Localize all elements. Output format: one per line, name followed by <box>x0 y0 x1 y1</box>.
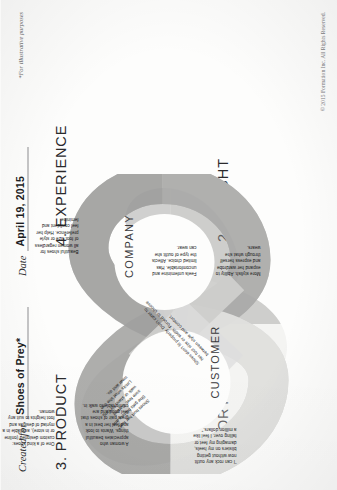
created-for-value[interactable]: Shoes of Prey* <box>14 307 28 419</box>
date-label: Date <box>17 256 28 276</box>
note-experience: More stylish. Ability to expand her ward… <box>214 244 260 276</box>
hub-label-company: COMPANY <box>122 214 134 278</box>
date-value[interactable]: April 19, 2015 <box>14 147 28 251</box>
date-field[interactable]: Date April 19, 2015 <box>14 147 28 276</box>
created-for-field[interactable]: Created for Shoes of Prey* <box>14 307 28 472</box>
copyright-notice: © 2015 Formation Inc. All Rights Reserve… <box>319 12 325 111</box>
note-beautiful-shoes: Beautiful shoes for all women regardless… <box>34 216 78 254</box>
note-customer-quote: “I can rock any outfit now without getti… <box>192 426 236 464</box>
illustrative-purposes-note: *For illustrative purposes <box>16 12 23 79</box>
note-product: One of a kind shoes: custom designed (on… <box>2 408 54 446</box>
hub-label-customer: CUSTOMER <box>208 325 220 398</box>
worksheet-page: Created for Shoes of Prey* Date April 19… <box>0 0 337 490</box>
note-insight: Feels unfeminine and uncomfortable. Has … <box>148 244 196 276</box>
